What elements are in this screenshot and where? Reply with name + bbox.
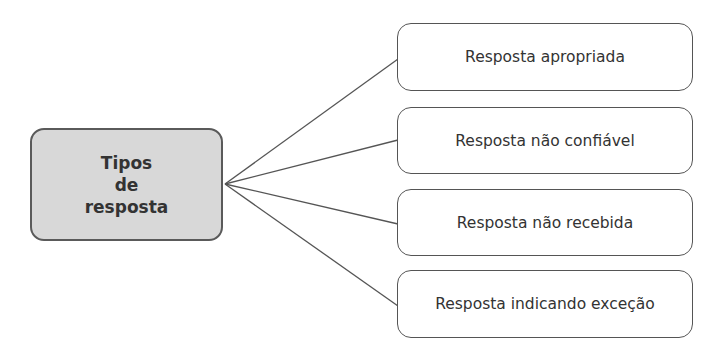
connector-line-4 xyxy=(225,184,398,306)
connector-line-2 xyxy=(225,140,398,184)
root-node-label: Tipos de resposta xyxy=(85,152,169,218)
leaf-node-resposta-indicando-excecao: Resposta indicando exceção xyxy=(397,270,693,338)
connector-line-1 xyxy=(225,59,398,184)
leaf-node-resposta-nao-recebida: Resposta não recebida xyxy=(397,189,693,256)
leaf-node-label: Resposta apropriada xyxy=(465,48,625,66)
connector-line-3 xyxy=(225,184,398,224)
root-node-tipos-de-resposta: Tipos de resposta xyxy=(30,128,223,241)
leaf-node-label: Resposta não recebida xyxy=(457,214,633,232)
leaf-node-resposta-nao-confiavel: Resposta não confiável xyxy=(397,107,693,174)
leaf-node-label: Resposta não confiável xyxy=(455,132,634,150)
leaf-node-resposta-apropriada: Resposta apropriada xyxy=(397,23,693,91)
leaf-node-label: Resposta indicando exceção xyxy=(435,295,655,313)
